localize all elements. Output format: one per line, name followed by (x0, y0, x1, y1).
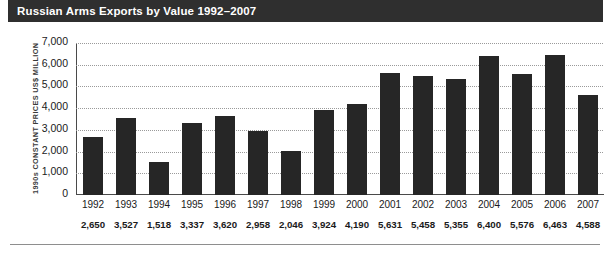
data-value-cell: 6,463 (538, 219, 572, 230)
chart-title-bar: Russian Arms Exports by Value 1992–2007 (8, 0, 603, 22)
x-axis-tick-label: 2004 (472, 199, 506, 210)
data-value-cell: 6,400 (472, 219, 506, 230)
x-axis-tick-label: 2006 (538, 199, 572, 210)
bar[interactable] (83, 137, 103, 195)
bar[interactable] (116, 118, 136, 195)
y-axis-tick-label: 3,000 (28, 122, 68, 134)
bar[interactable] (215, 116, 235, 195)
y-axis-tick-label: 7,000 (28, 35, 68, 47)
x-axis-tick-label: 2001 (373, 199, 407, 210)
bar[interactable] (578, 95, 598, 195)
data-value-cell: 5,355 (439, 219, 473, 230)
x-axis-tick-label: 1999 (307, 199, 341, 210)
plot-area (76, 43, 603, 195)
bar[interactable] (347, 104, 367, 195)
data-value-cell: 5,458 (406, 219, 440, 230)
data-value-cell: 3,527 (109, 219, 143, 230)
x-axis-tick-label: 1994 (142, 199, 176, 210)
bar[interactable] (281, 151, 301, 195)
bar[interactable] (149, 162, 169, 195)
x-axis-tick-label: 1997 (241, 199, 275, 210)
x-axis-tick-label: 2007 (571, 199, 605, 210)
data-value-cell: 3,337 (175, 219, 209, 230)
y-axis-tick-label: 6,000 (28, 57, 68, 69)
y-axis-tick-label: 4,000 (28, 100, 68, 112)
y-axis-tick-labels: 7,0006,0005,0004,0003,0002,0001,0000 (28, 0, 72, 258)
x-axis-tick-label: 1992 (76, 199, 110, 210)
data-value-cell: 5,576 (505, 219, 539, 230)
y-axis-tick-label: 0 (28, 187, 68, 199)
bar[interactable] (380, 73, 400, 195)
gridline (76, 65, 603, 66)
bar[interactable] (314, 110, 334, 195)
data-value-cell: 5,631 (373, 219, 407, 230)
x-axis-tick-label: 2002 (406, 199, 440, 210)
y-axis-tick-label: 1,000 (28, 165, 68, 177)
bar[interactable] (479, 56, 499, 195)
data-value-cell: 3,924 (307, 219, 341, 230)
x-axis-tick-label: 1996 (208, 199, 242, 210)
x-axis-tick-label: 1998 (274, 199, 308, 210)
x-axis-tick-label: 1995 (175, 199, 209, 210)
data-value-cell: 2,958 (241, 219, 275, 230)
bar[interactable] (446, 79, 466, 195)
data-value-row: 2,6503,5271,5183,3373,6202,9582,0463,924… (76, 219, 604, 233)
x-axis-tick-label: 2000 (340, 199, 374, 210)
x-axis-tick-label: 2003 (439, 199, 473, 210)
chart-figure: Russian Arms Exports by Value 1992–2007 … (0, 0, 611, 258)
x-axis-tick-label: 1993 (109, 199, 143, 210)
data-value-cell: 4,190 (340, 219, 374, 230)
data-value-cell: 2,046 (274, 219, 308, 230)
x-axis-tick-labels: 1992199319941995199619971998199920002001… (76, 199, 604, 215)
data-value-cell: 1,518 (142, 219, 176, 230)
bar[interactable] (512, 74, 532, 195)
data-value-cell: 4,588 (571, 219, 605, 230)
bar[interactable] (413, 76, 433, 195)
bar[interactable] (545, 55, 565, 195)
y-axis-tick-label: 5,000 (28, 78, 68, 90)
x-axis-tick-label: 2005 (505, 199, 539, 210)
data-value-cell: 3,620 (208, 219, 242, 230)
data-value-cell: 2,650 (76, 219, 110, 230)
bottom-divider (10, 244, 600, 245)
bar[interactable] (182, 123, 202, 195)
y-axis-tick-label: 2,000 (28, 144, 68, 156)
gridline (76, 43, 603, 44)
bar[interactable] (248, 131, 268, 195)
